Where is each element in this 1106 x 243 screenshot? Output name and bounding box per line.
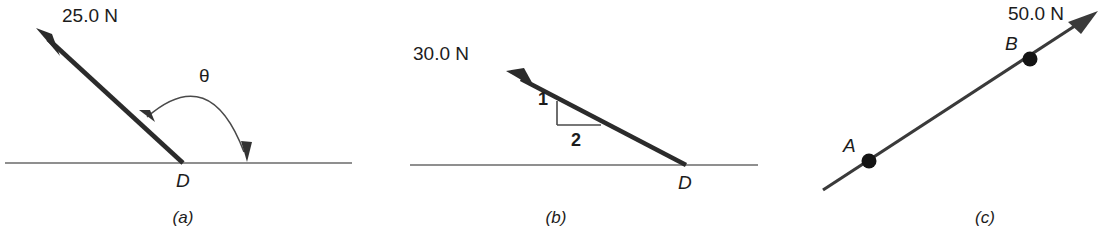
panel-b-caption: (b): [546, 208, 567, 227]
panel-c-point-a-dot: [862, 154, 877, 169]
panel-b: 30.0 N 1 2 D (b): [410, 43, 758, 227]
panel-a-point-label-d: D: [176, 170, 190, 191]
panel-c-caption: (c): [975, 208, 995, 227]
panel-c: 50.0 N A B (c): [823, 3, 1098, 227]
panel-a: 25.0 N θ D (a): [5, 5, 352, 227]
panel-a-angle-arc-arrowhead-right: [241, 141, 252, 162]
panel-a-force-vector-shaft: [48, 39, 183, 163]
panel-a-angle-label: θ: [199, 65, 210, 86]
panel-b-force-arrowhead: [506, 68, 535, 88]
force-diagram-canvas: 25.0 N θ D (a) 30.0 N 1 2 D (b): [0, 0, 1106, 243]
panel-a-force-label: 25.0 N: [62, 5, 118, 26]
panel-b-slope-run-label: 2: [571, 130, 581, 150]
panel-a-caption: (a): [173, 208, 194, 227]
panel-c-point-label-b: B: [1005, 33, 1018, 54]
panel-b-point-label-d: D: [678, 172, 692, 193]
panel-c-force-arrowhead: [1068, 11, 1098, 34]
panel-c-point-b-dot: [1023, 52, 1038, 67]
panel-c-point-label-a: A: [842, 135, 856, 156]
panel-a-force-arrowhead: [36, 28, 60, 56]
panel-b-slope-rise-label: 1: [538, 89, 548, 109]
panel-b-force-label: 30.0 N: [413, 43, 469, 64]
figure-container: 25.0 N θ D (a) 30.0 N 1 2 D (b): [0, 0, 1106, 243]
panel-c-force-vector-shaft: [823, 20, 1084, 190]
panel-c-force-label: 50.0 N: [1008, 3, 1064, 24]
